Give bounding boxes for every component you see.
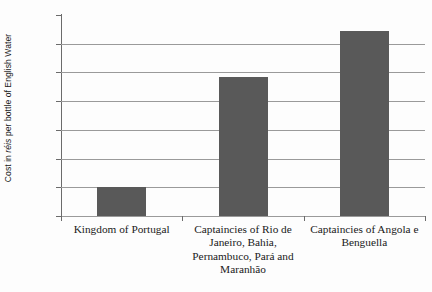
bar[interactable]: [340, 31, 389, 216]
x-tick-mark: [425, 216, 426, 221]
y-tick-mark: [56, 72, 61, 73]
x-category-label-line: Kingdom of Portugal: [55, 223, 188, 236]
x-tick-mark: [182, 216, 183, 221]
y-tick-mark: [56, 101, 61, 102]
x-tick-mark: [304, 216, 305, 221]
x-category-label: Kingdom of Portugal: [55, 223, 188, 236]
x-category-label-line: Captaincies of Rio de: [176, 223, 309, 236]
y-axis-title-italic-reis: réis: [3, 139, 13, 153]
plot-area: [61, 15, 425, 216]
bar-chart: Cost in réis per bottle of English Water…: [0, 0, 432, 292]
x-category-label-line: Captaincies of Angola e: [298, 223, 431, 236]
y-axis-title-before: Cost in: [3, 153, 13, 183]
bar[interactable]: [219, 77, 268, 216]
x-category-label: Captaincies of Angola eBenguella: [298, 223, 431, 250]
x-category-label: Captaincies of Rio deJaneiro, Bahia,Pern…: [176, 223, 309, 277]
gridline: [61, 216, 425, 217]
x-category-label-line: Pernambuco, Pará and: [176, 250, 309, 263]
y-tick-mark: [56, 15, 61, 16]
y-tick-mark: [56, 44, 61, 45]
y-axis-title-after: per bottle of English Water: [3, 34, 13, 139]
x-category-label-line: Janeiro, Bahia,: [176, 236, 309, 249]
y-tick-mark: [56, 159, 61, 160]
y-tick-mark: [56, 130, 61, 131]
x-tick-mark: [61, 216, 62, 221]
y-tick-mark: [56, 187, 61, 188]
bar[interactable]: [97, 187, 146, 216]
x-category-label-line: Benguella: [298, 236, 431, 249]
x-category-label-line: Maranhão: [176, 263, 309, 276]
y-axis-title: Cost in réis per bottle of English Water: [0, 0, 16, 216]
